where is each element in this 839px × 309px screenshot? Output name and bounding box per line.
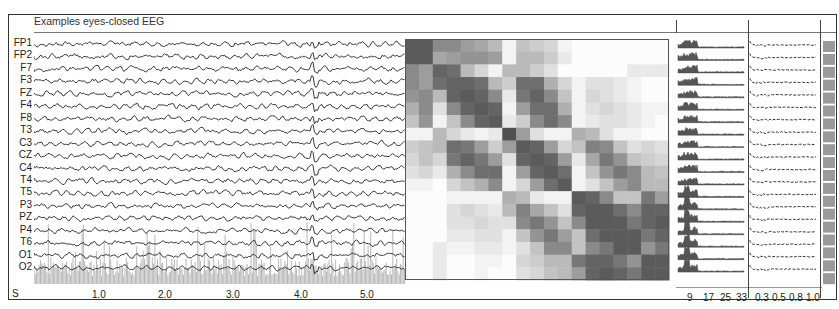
spectrum-tick-3: 25	[720, 292, 731, 303]
spectrum-f4	[678, 103, 744, 111]
coherence-trace-f8	[750, 116, 816, 121]
coherence-tick-3: 0.8	[789, 292, 803, 303]
coherence-tick-1: 0.3	[755, 292, 769, 303]
coherence-tick-4: 1.0	[806, 292, 820, 303]
coherence-trace-f4	[750, 103, 816, 108]
divider-coherence-colorbar	[820, 20, 821, 298]
eeg-trace-fz	[34, 88, 405, 99]
eeg-trace-cz	[34, 151, 405, 162]
eeg-trace-c4	[34, 165, 405, 176]
spectrum-fz	[678, 90, 744, 98]
spectrum-fp2	[678, 52, 744, 60]
spectrum-f8	[678, 115, 744, 123]
spectrum-c3	[678, 141, 744, 148]
spectrum-t6	[678, 234, 744, 247]
time-tick-4: 4.0	[294, 289, 308, 300]
time-tick-2: 2.0	[158, 289, 172, 300]
coherence-trace-pz	[750, 215, 816, 221]
channel-label-f7: F7	[10, 63, 32, 73]
spectrum-t3	[678, 127, 744, 135]
eeg-trace-t5	[34, 189, 405, 199]
channel-label-f4: F4	[10, 100, 32, 110]
eeg-trace-fp2	[34, 53, 405, 60]
channel-label-fp2: FP2	[10, 50, 32, 60]
coherence-trace-o1	[750, 253, 816, 258]
color-bar	[822, 40, 836, 286]
spectrum-f3	[678, 77, 744, 85]
channel-label-pz: PZ	[10, 212, 32, 222]
spectrum-p4	[678, 221, 744, 235]
divider-spectrum-left	[676, 20, 677, 33]
coherence-trace-o2	[750, 265, 816, 271]
coherence-trace-t5	[750, 190, 816, 196]
coherence-trace-t6	[750, 240, 816, 245]
channel-label-cz: CZ	[10, 150, 32, 160]
channel-label-o1: O1	[10, 250, 32, 260]
channel-label-t3: T3	[10, 125, 32, 135]
channel-label-t5: T5	[10, 187, 32, 197]
coherence-trace-p3	[750, 203, 816, 209]
eeg-trace-f3	[34, 76, 405, 88]
coherence-trace-f3	[750, 78, 816, 83]
coherence-trace-cz	[750, 153, 816, 158]
eeg-trace-f4	[34, 103, 405, 112]
channel-label-p3: P3	[10, 200, 32, 210]
spectrum-panel	[676, 33, 746, 287]
eeg-trace-o1	[34, 253, 405, 261]
coherence-trace-t3	[750, 128, 816, 133]
channel-label-f3: F3	[10, 75, 32, 85]
coherence-tick-2: 0.5	[772, 292, 786, 303]
channel-label-c3: C3	[10, 138, 32, 148]
coherence-trace-f7	[750, 66, 816, 71]
spectrum-cz	[678, 152, 744, 160]
spectrum-c4	[678, 165, 744, 173]
spectrum-f7	[678, 65, 744, 73]
channel-label-c4: C4	[10, 163, 32, 173]
eeg-trace-t4	[34, 176, 405, 186]
coherence-heatmap	[405, 39, 670, 281]
time-tick-3: 3.0	[226, 289, 240, 300]
axis-divider-right	[676, 287, 822, 288]
channel-label-p4: P4	[10, 225, 32, 235]
figure-title: Examples eyes-closed EEG	[34, 15, 164, 27]
eeg-trace-f8	[34, 115, 405, 124]
spectrum-tick-2: 17	[703, 292, 714, 303]
eeg-trace-panel	[34, 33, 405, 284]
eeg-trace-pz	[34, 215, 405, 222]
channel-label-fz: FZ	[10, 88, 32, 98]
eeg-trace-f7	[34, 62, 405, 74]
spectrum-p3	[678, 196, 744, 210]
eeg-trace-p3	[34, 201, 405, 210]
spectrum-tick-1: 9	[687, 292, 693, 303]
spectrum-o2	[678, 259, 744, 273]
eeg-trace-t3	[34, 125, 405, 135]
spectrum-fp1	[678, 40, 744, 48]
coherence-trace-c3	[750, 141, 816, 146]
eeg-trace-fp1	[34, 41, 405, 49]
coherence-trace-t4	[750, 178, 816, 183]
coherence-trace-fp2	[750, 53, 816, 58]
eeg-trace-c3	[34, 137, 405, 148]
channel-label-t6: T6	[10, 237, 32, 247]
channel-label-t4: T4	[10, 175, 32, 185]
spectrum-pz	[678, 208, 744, 222]
eeg-trace-p4	[34, 226, 405, 235]
spectrum-o1	[678, 246, 744, 260]
coherence-trace-fz	[750, 91, 816, 97]
coherence-trace-fp1	[750, 41, 816, 46]
time-axis-unit: S	[12, 288, 19, 299]
spectrum-tick-4: 33	[736, 292, 747, 303]
coherence-trace-panel	[749, 33, 819, 287]
time-tick-5: 5.0	[360, 289, 374, 300]
channel-label-o2: O2	[10, 262, 32, 272]
channel-label-fp1: FP1	[10, 38, 32, 48]
time-tick-1: 1.0	[92, 289, 106, 300]
spectrum-t4	[678, 178, 744, 185]
coherence-trace-c4	[750, 166, 816, 171]
coherence-trace-p4	[750, 228, 816, 233]
eeg-trace-t6	[34, 237, 405, 247]
channel-label-f8: F8	[10, 113, 32, 123]
